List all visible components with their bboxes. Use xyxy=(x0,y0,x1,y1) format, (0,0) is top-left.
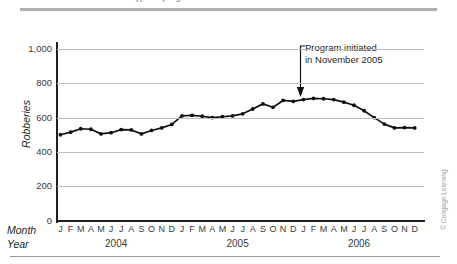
gridline xyxy=(57,118,424,119)
figure-caption-clipped: type of program was initiated in Novembe… xyxy=(0,0,457,2)
credit-text: © Cengage Learning xyxy=(440,165,447,235)
program-annotation: Program initiated in November 2005 xyxy=(305,42,420,65)
month-tick-label: D xyxy=(409,224,421,234)
y-tick-label: 1,000 xyxy=(0,43,52,54)
month-axis-row: Month JFMAMJJASONDJFMAMJJASONDJFMAMJJASO… xyxy=(0,224,457,237)
year-tick-label: 2004 xyxy=(86,238,146,249)
gridline xyxy=(57,152,424,153)
figure-caption-text: type of program was initiated in Novembe… xyxy=(0,0,457,2)
annotation-line-1: Program initiated xyxy=(305,42,420,54)
annotation-line-2: in November 2005 xyxy=(305,54,420,66)
year-axis-row: Year 200420052006 xyxy=(0,238,457,251)
gridline xyxy=(57,186,424,187)
gridline xyxy=(57,49,424,50)
year-tick-label: 2005 xyxy=(208,238,268,249)
year-row-label: Year xyxy=(7,238,29,250)
plot-area xyxy=(57,44,424,221)
y-axis-title: Robberies xyxy=(20,79,32,169)
top-divider-rule xyxy=(20,8,437,11)
month-row-label: Month xyxy=(7,224,36,236)
y-tick-label: 200 xyxy=(0,180,52,191)
year-tick-label: 2006 xyxy=(329,238,389,249)
bottom-divider-rule xyxy=(10,256,440,257)
gridline xyxy=(57,83,424,84)
